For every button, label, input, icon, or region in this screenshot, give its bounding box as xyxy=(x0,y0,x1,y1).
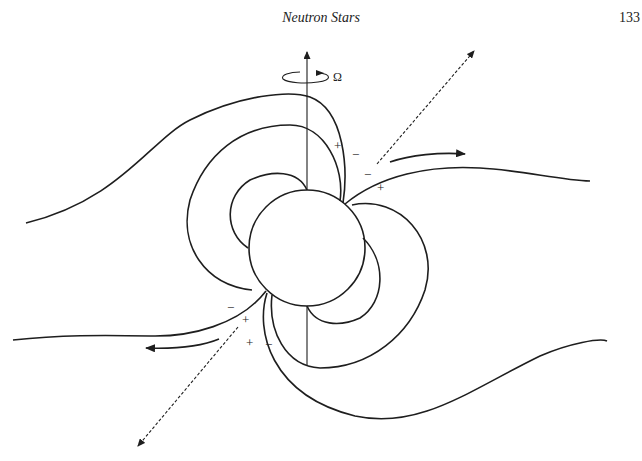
charge-minus-label: − xyxy=(364,167,371,182)
field-line-lower-outer xyxy=(263,293,607,419)
outflow-arrow-upper xyxy=(390,153,465,162)
open-field-line-lower xyxy=(13,291,266,340)
charge-plus-label: + xyxy=(334,138,341,153)
emission-beam-upper xyxy=(377,51,474,164)
charge-plus-label: + xyxy=(242,312,249,327)
outflow-arrow-lower xyxy=(146,339,219,348)
charge-minus-label: − xyxy=(352,147,359,162)
charge-plus-label: + xyxy=(246,335,253,350)
charge-minus-label: − xyxy=(265,337,272,352)
charge-minus-label: − xyxy=(227,300,234,315)
omega-label: Ω xyxy=(333,70,342,84)
neutron-star-diagram: Ω + − − + − + + − xyxy=(0,0,642,461)
emission-beam-lower xyxy=(138,327,238,446)
neutron-star xyxy=(249,190,365,306)
rotation-arrowhead-icon xyxy=(316,70,324,76)
charge-plus-label: + xyxy=(377,180,384,195)
